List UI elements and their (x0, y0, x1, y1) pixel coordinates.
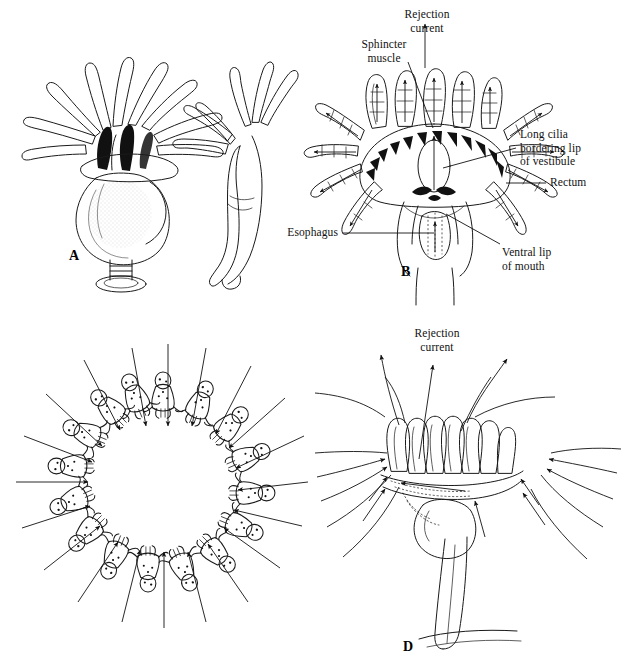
panel-b: Rejection current Sphincter muscle Long … (300, 0, 623, 305)
long-cilia-border (366, 131, 504, 181)
ring-polyp (212, 500, 270, 554)
panel-b-sphincter-muscle-label: Sphincter muscle (338, 38, 430, 65)
panel-b-rejection-current-label: Rejection current (382, 8, 472, 35)
stomach (403, 493, 476, 559)
panel-d-drawing (315, 325, 623, 654)
panel-b-letter: B (401, 264, 410, 280)
ring-polyp (229, 473, 275, 513)
vestibule (360, 124, 510, 207)
panel-b-esophagus-label: Esophagus (238, 226, 338, 240)
ventral-lip-left (412, 186, 432, 195)
panel-b-ventral-lip-label: Ventral lip of mouth (502, 246, 592, 273)
pedal-disc (96, 276, 146, 292)
ring-polyp (108, 367, 163, 425)
polyp-outline-specimen (173, 62, 298, 289)
panel-b-long-cilia-label: Long cilia bordering lip of vestibule (520, 128, 620, 169)
ring-polyp (128, 546, 168, 592)
substrate-line (419, 630, 517, 639)
outline-crease (230, 196, 254, 200)
panel-d-rejection-current-label: Rejection current (391, 327, 483, 354)
stalk (110, 260, 132, 280)
panel-a-drawing (0, 18, 310, 308)
stalk-rings (110, 266, 132, 276)
lower-body (397, 202, 473, 305)
feeding-current-arrows (16, 344, 308, 628)
substrate-line (427, 640, 521, 647)
panel-a: A (0, 18, 310, 308)
tentacle-crown-lateral (387, 416, 516, 473)
polyp-shaded-specimen (22, 57, 223, 292)
vestibule-floor (381, 471, 523, 500)
panel-a-letter: A (69, 248, 79, 264)
panel-c: C (8, 330, 318, 630)
ring-polyp (56, 406, 114, 460)
panel-d-letter: D (403, 639, 413, 654)
figure-plate: A (0, 0, 623, 654)
tentacle-bases-dark (97, 125, 153, 171)
panel-b-rectum-label: Rectum (550, 176, 586, 190)
polyp-body-outline (209, 146, 240, 286)
ring-polyp (48, 446, 94, 486)
outline-crease (228, 204, 252, 210)
ring-polyp (219, 430, 277, 485)
body-stipple (88, 180, 152, 248)
tentacles-upper (366, 69, 502, 128)
rejection-current-arrow (419, 365, 433, 459)
outflow-streams (315, 355, 555, 431)
pedal-disc-inner (104, 278, 138, 288)
ring-polyp (57, 502, 118, 563)
ring-polyp (199, 395, 260, 456)
panel-d: Rejection current D (315, 325, 623, 654)
tentacle-crown-outline (173, 62, 298, 154)
polyp-ring (43, 367, 277, 598)
ring-polyp (186, 523, 247, 584)
ventral-lip-right (436, 186, 456, 195)
panel-c-drawing (8, 330, 318, 630)
